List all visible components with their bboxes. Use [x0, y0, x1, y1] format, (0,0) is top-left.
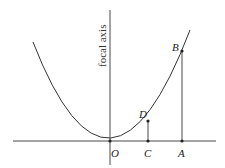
label-D: D	[138, 108, 147, 120]
point-C	[146, 139, 149, 142]
point-B	[180, 49, 183, 52]
parabola-diagram: O C A D B focal axis	[0, 0, 225, 168]
point-O	[108, 139, 111, 142]
focal-axis-label: focal axis	[96, 25, 108, 67]
label-A: A	[177, 147, 185, 159]
parabola-curve	[33, 30, 190, 138]
label-O: O	[111, 147, 119, 159]
label-C: C	[144, 147, 152, 159]
point-A	[180, 139, 183, 142]
label-B: B	[172, 41, 179, 53]
